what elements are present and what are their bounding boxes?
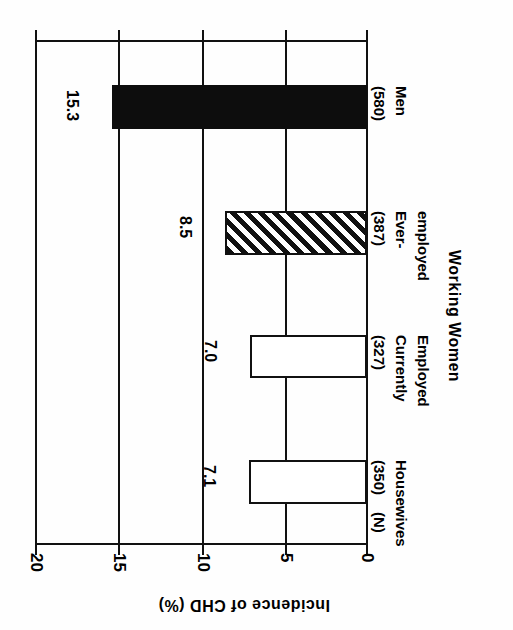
n-value-currently-employed: (327) [372, 335, 387, 370]
bar-value-men: 15.3 [64, 90, 80, 121]
category-label-housewives: Housewives [394, 460, 409, 547]
tick-label-15: 15 [111, 553, 128, 572]
tick-label-20: 20 [28, 553, 45, 572]
category-label-currently-employed-line2: Employed [416, 335, 431, 407]
bar-currently-employed[interactable] [250, 335, 367, 378]
tick-label-0: 0 [359, 553, 376, 562]
bar-value-currently-employed: 7.0 [202, 340, 218, 362]
category-label-currently-employed-line1: Currently [394, 335, 409, 402]
value-axis-caption: Incidence of CHD (%) [158, 597, 330, 613]
category-label-men: Men [394, 86, 409, 116]
tick-mark-15-top [118, 30, 120, 40]
bar-men[interactable] [112, 85, 367, 129]
tick-mark-0-top [366, 30, 368, 40]
group-label-working-women: Working Women [446, 250, 462, 382]
category-label-ever-employed-line2: employed [416, 211, 431, 281]
bar-housewives[interactable] [249, 460, 367, 504]
category-label-ever-employed-line1: Ever- [394, 211, 409, 249]
tick-mark-20-top [35, 30, 37, 40]
n-value-men: (580) [372, 86, 387, 121]
bar-ever-employed[interactable] [225, 211, 367, 255]
n-value-housewives: (350) [372, 460, 387, 495]
tick-mark-5-top [285, 30, 287, 40]
bar-value-ever-employed: 8.5 [177, 216, 193, 238]
n-value-ever-employed: (387) [372, 211, 387, 246]
bar-value-housewives: 7.1 [201, 465, 217, 487]
axis-line-max [35, 40, 37, 545]
tick-label-5: 5 [278, 553, 295, 562]
tick-mark-10-top [202, 30, 204, 40]
n-column-header: (N) [372, 512, 387, 533]
tick-label-10: 10 [195, 553, 212, 572]
chart-figure: 15.3 8.5 7.0 7.1 20 15 10 5 0 Incidence … [0, 0, 513, 630]
